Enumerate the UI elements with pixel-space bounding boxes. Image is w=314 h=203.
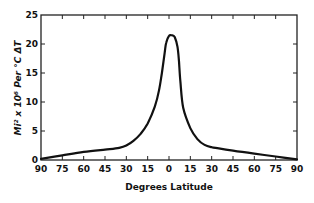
x-tick-label: 15 <box>184 164 197 174</box>
x-axis-title: Degrees Latitude <box>125 182 213 192</box>
y-tick-label: 10 <box>25 97 38 107</box>
x-tick-label: 0 <box>166 164 172 174</box>
y-axis-title: Mi² x 10⁶ Per °C ΔT <box>13 40 23 136</box>
x-tick-label: 75 <box>56 164 69 174</box>
y-tick-label: 0 <box>32 155 38 165</box>
y-tick-label: 15 <box>25 68 38 78</box>
x-tick-label: 75 <box>269 164 282 174</box>
data-curve <box>41 35 297 159</box>
x-tick-label: 90 <box>35 164 48 174</box>
line-chart: 9075604530150153045607590 0510152025 Deg… <box>0 0 314 203</box>
x-tick-labels: 9075604530150153045607590 <box>35 164 304 174</box>
x-tick-label: 30 <box>120 164 133 174</box>
x-tick-label: 60 <box>77 164 90 174</box>
chart-figure: 9075604530150153045607590 0510152025 Deg… <box>0 0 314 203</box>
x-tick-label: 60 <box>248 164 261 174</box>
x-tick-label: 15 <box>141 164 154 174</box>
y-tick-label: 20 <box>25 39 38 49</box>
x-tick-label: 90 <box>291 164 304 174</box>
x-tick-label: 30 <box>205 164 218 174</box>
y-tick-label: 5 <box>32 126 38 136</box>
y-tick-labels: 0510152025 <box>25 10 38 165</box>
y-tick-label: 25 <box>25 10 38 20</box>
x-tick-label: 45 <box>227 164 240 174</box>
x-tick-label: 45 <box>99 164 112 174</box>
